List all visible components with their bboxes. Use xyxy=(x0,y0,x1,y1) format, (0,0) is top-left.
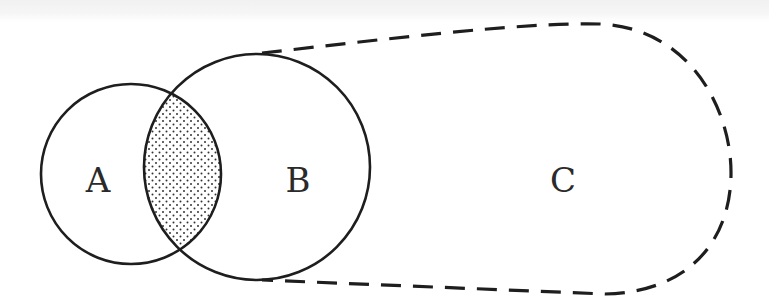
venn-diagram: A B C xyxy=(0,0,769,308)
set-c-boundary xyxy=(262,24,731,294)
label-b: B xyxy=(286,160,311,200)
label-c: C xyxy=(550,160,576,200)
label-a: A xyxy=(85,160,111,200)
